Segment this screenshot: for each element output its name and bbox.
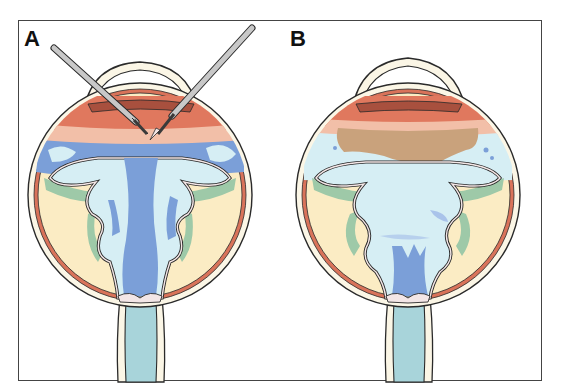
panel-label-b: B <box>290 28 306 50</box>
panel-b <box>296 58 520 382</box>
optic-nerve-b <box>393 300 425 382</box>
iris-b <box>356 101 462 112</box>
panel-label-a: A <box>24 28 40 50</box>
eye-diagram <box>0 0 564 388</box>
panel-a <box>28 28 252 382</box>
optic-nerve-a <box>125 300 157 382</box>
